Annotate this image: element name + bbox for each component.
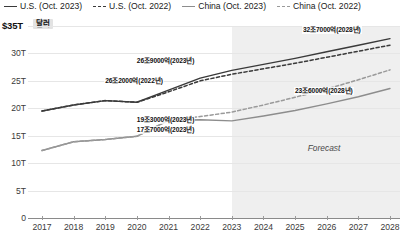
data-annotation: 26조9000억(2023년) [136,57,196,65]
chart-root: U.S. (Oct. 2023) U.S. (Oct. 2022) China … [0,0,406,239]
x-tick-mark [327,216,328,220]
y-tick-label: 15T [2,132,26,141]
x-tick-mark [358,216,359,220]
y-tick-label: 25T [2,77,26,86]
series-line [42,89,390,151]
data-annotation: 19조3000억(2023년) [136,116,196,124]
y-tick-label: 20T [2,104,26,113]
x-tick-label: 2021 [159,223,178,232]
x-tick-mark [390,216,391,220]
data-annotation: 26조2000억(2022년) [104,77,164,85]
legend-item-china-2022[interactable]: China (Oct. 2022) [277,2,361,11]
data-annotation: 17조7000억(2023년) [136,126,196,134]
x-tick-label: 2020 [127,223,146,232]
x-tick-mark [42,216,43,220]
legend-label: China (Oct. 2022) [293,2,361,11]
x-tick-mark [295,216,296,220]
legend-label: U.S. (Oct. 2023) [20,2,82,11]
legend-item-us-2022[interactable]: U.S. (Oct. 2022) [93,2,171,11]
series-lines [28,26,400,218]
x-tick-label: 2018 [64,223,83,232]
line-solid-icon [182,6,195,7]
line-dashed-icon [93,6,106,7]
line-dashed-icon [277,6,290,7]
x-tick-mark [74,216,75,220]
x-axis-line [28,218,400,219]
x-tick-mark [105,216,106,220]
y-tick-label: 0 [2,214,26,223]
x-axis-ticks: 2017201820192020202120222023202420252026… [28,221,400,235]
forecast-label: Forecast [308,143,341,153]
series-line [42,70,390,151]
x-tick-label: 2022 [191,223,210,232]
x-tick-label: 2017 [32,223,51,232]
x-tick-mark [137,216,138,220]
y-axis-ticks: 05T10T15T20T25T30T$35T [0,26,26,218]
x-tick-label: 2023 [222,223,241,232]
x-tick-mark [263,216,264,220]
y-tick-label: 30T [2,49,26,58]
x-tick-label: 2028 [380,223,399,232]
chart-legend: U.S. (Oct. 2023) U.S. (Oct. 2022) China … [4,2,361,11]
legend-item-china-2023[interactable]: China (Oct. 2023) [182,2,266,11]
legend-label: China (Oct. 2023) [198,2,266,11]
legend-label: U.S. (Oct. 2022) [109,2,171,11]
series-line [42,39,390,111]
x-tick-label: 2019 [96,223,115,232]
y-tick-label: 5T [2,187,26,196]
x-tick-label: 2026 [317,223,336,232]
x-tick-label: 2025 [286,223,305,232]
x-tick-mark [169,216,170,220]
data-annotation: 32조7000억(2028년) [302,26,362,34]
data-annotation: 23조6000억(2028년) [294,87,354,95]
x-tick-mark [232,216,233,220]
plot-area [28,26,400,218]
line-solid-icon [4,6,17,7]
y-tick-label: 10T [2,159,26,168]
x-tick-label: 2027 [349,223,368,232]
x-tick-label: 2024 [254,223,273,232]
x-tick-mark [200,216,201,220]
legend-item-us-2023[interactable]: U.S. (Oct. 2023) [4,2,82,11]
